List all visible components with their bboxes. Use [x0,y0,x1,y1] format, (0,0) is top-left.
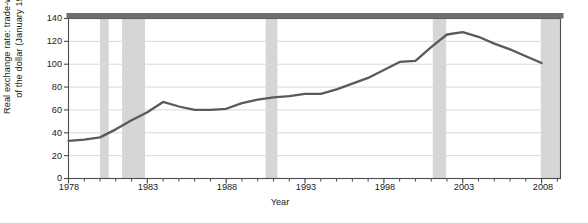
plot-area [0,0,588,223]
recession-band [433,19,446,179]
chart-figure: Real exchange rate: trade-weighted value… [0,0,588,223]
plot-top-band [67,13,564,19]
recession-band [100,19,109,179]
recession-band [541,19,561,179]
recession-band [122,19,145,179]
